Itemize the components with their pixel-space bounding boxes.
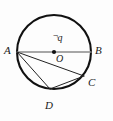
vertex-label-A: A [4, 45, 11, 56]
center-label-O: O [56, 54, 63, 64]
vertex-label-B: B [95, 45, 102, 56]
vertex-label-D: D [45, 100, 53, 111]
charge-label-negative-q: ¬q [53, 31, 63, 43]
vertex-label-C: C [88, 77, 95, 88]
charge-symbol-q: q [58, 32, 63, 43]
circle-geometry-figure: A B C D O ¬q [0, 0, 113, 121]
